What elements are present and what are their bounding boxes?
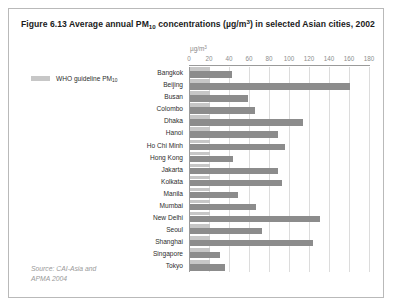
chart-bar-row [189,127,369,139]
x-axis-tick-label: 60 [245,55,252,62]
category-label: Mumbai [160,202,183,210]
bar-pm10-value [190,252,220,258]
gridline [369,67,370,272]
chart-bar-row [189,236,369,248]
chart-bar-row [189,139,369,151]
chart-bar-row [189,212,369,224]
category-label: New Delhi [153,214,183,222]
category-label: Beijing [163,81,183,89]
bar-pm10-value [190,264,225,270]
bar-pm10-value [190,168,278,174]
bar-pm10-value [190,144,285,150]
category-label: Kolkata [161,178,183,186]
bar-pm10-value [190,228,262,234]
bar-pm10-value [190,204,256,210]
figure-title-prefix: Figure 6.13 Average annual PM [21,19,149,29]
figure-title-mid: concentrations (µg/m [156,19,247,29]
chart-bar-row [189,188,369,200]
x-axis-tick-label: 120 [304,55,315,62]
category-label: Bangkok [157,69,183,77]
bar-pm10-value [190,119,303,125]
x-axis-tick-label: 140 [324,55,335,62]
figure-title-suffix: ) in selected Asian cities, 2002 [250,19,375,29]
axis-unit-label: µg/m3 [190,45,207,52]
x-axis-tick-label: 160 [344,55,355,62]
bar-pm10-value [190,240,313,246]
category-label: Dhaka [164,117,183,125]
x-axis-tick-label: 100 [284,55,295,62]
axis-unit-prefix: µg/m [190,45,204,52]
figure-title-subscript: 10 [149,23,156,30]
category-label: Busan [164,93,183,101]
category-label: Shanghai [155,238,183,246]
x-axis-tick-label: 20 [205,55,212,62]
x-axis-tick-label: 80 [265,55,272,62]
axis-unit-superscript: 3 [204,45,207,50]
chart-bar-row [189,67,369,79]
chart-bar-row [189,151,369,163]
category-label: Colombo [157,105,183,113]
x-axis-rule [189,65,370,66]
x-axis-tick-label: 180 [364,55,375,62]
bar-pm10-value [190,95,248,101]
chart-bar-row [189,248,369,260]
bar-pm10-value [190,83,350,89]
figure-title-superscript: 3 [246,18,250,25]
chart-bar-row [189,224,369,236]
category-label: Seoul [166,226,183,234]
bar-pm10-value [190,131,278,137]
chart-bar-row [189,200,369,212]
x-axis-tick-label: 0 [187,55,191,62]
category-label: Tokyo [166,262,183,270]
figure-title: Figure 6.13 Average annual PM10 concentr… [21,19,377,30]
chart-bar-row [189,91,369,103]
plot-area [189,67,369,272]
bar-pm10-value [190,156,233,162]
bar-pm10-value [190,180,282,186]
x-axis-tick-label: 40 [225,55,232,62]
chart-bar-row [189,103,369,115]
category-label: Hanoi [166,129,183,137]
figure-card: Figure 6.13 Average annual PM10 concentr… [8,8,384,298]
category-label: Manila [164,190,183,198]
bar-pm10-value [190,71,232,77]
category-axis-labels: BangkokBeijingBusanColomboDhakaHanoiHo C… [99,67,187,272]
chart-bar-row [189,176,369,188]
legend-swatch-who-guideline [31,76,50,81]
bar-pm10-value [190,192,238,198]
category-label: Ho Chi Minh [147,142,183,150]
bar-pm10-value [190,216,320,222]
chart-bar-row [189,163,369,175]
bar-pm10-value [190,107,255,113]
category-label: Jakarta [161,166,183,174]
chart-bar-row [189,115,369,127]
source-note: Source: CAI-Asia and APMA 2004 [31,264,96,283]
category-label: Hong Kong [150,154,183,162]
chart-bar-row [189,79,369,91]
x-axis-tick-labels: 020406080100120140160180 [189,55,369,65]
category-label: Singapore [153,250,183,258]
chart-bar-row [189,260,369,272]
